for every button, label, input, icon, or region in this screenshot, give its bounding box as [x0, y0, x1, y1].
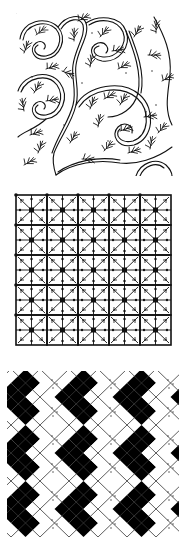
grid-lattice-pattern	[13, 192, 177, 348]
harlequin-diamond-pattern	[7, 371, 179, 542]
grid-lattice-art	[13, 192, 177, 348]
swirl-foliage-pattern	[16, 13, 174, 176]
harlequin-diamond-art	[7, 371, 179, 542]
swirl-foliage-art	[16, 13, 174, 176]
